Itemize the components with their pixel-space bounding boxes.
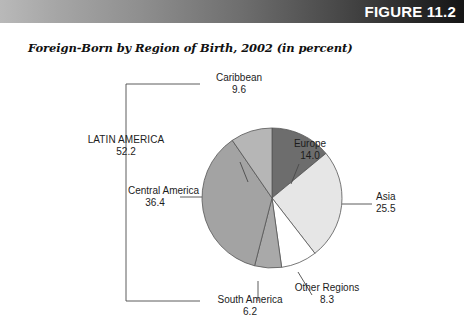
chart-title: Foreign-Born by Region of Birth, 2002 (i… — [28, 41, 352, 55]
pie-label-asia: Asia 25.5 — [376, 191, 436, 214]
pie-label-caribbean-value: 9.6 — [196, 84, 282, 96]
pie-label-other-regions-name: Other Regions — [286, 282, 368, 294]
pie-label-latin-america: LATIN AMERICA 52.2 — [60, 134, 192, 157]
pie-label-europe-value: 14.0 — [281, 150, 339, 162]
pie-label-south-america-value: 6.2 — [200, 306, 300, 318]
figure-number-label: FIGURE 11.2 — [365, 2, 456, 21]
pie-label-latin-america-name: LATIN AMERICA — [60, 134, 192, 146]
pie-label-europe: Europe 14.0 — [281, 138, 339, 161]
pie-label-europe-name: Europe — [281, 138, 339, 150]
pie-chart-container: Europe 14.0 Asia 25.5 Other Regions 8.3 … — [0, 58, 464, 323]
pie-label-caribbean-name: Caribbean — [196, 72, 282, 84]
pie-label-central-america: Central America 36.4 — [128, 185, 182, 208]
pie-label-central-america-name: Central America — [128, 185, 182, 197]
pie-label-south-america: South America 6.2 — [200, 294, 300, 317]
pie-label-asia-name: Asia — [376, 191, 436, 203]
figure-header-band: FIGURE 11.2 — [0, 0, 464, 23]
pie-label-caribbean: Caribbean 9.6 — [196, 72, 282, 95]
pie-label-asia-value: 25.5 — [376, 203, 436, 215]
pie-label-south-america-name: South America — [200, 294, 300, 306]
pie-label-central-america-value: 36.4 — [128, 197, 182, 209]
pie-label-latin-america-value: 52.2 — [60, 146, 192, 158]
